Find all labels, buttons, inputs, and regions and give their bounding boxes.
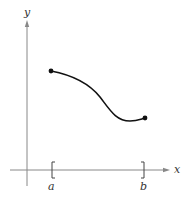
x-axis-arrow-icon — [163, 168, 170, 172]
function-curve — [51, 71, 145, 121]
y-axis-arrow-icon — [25, 20, 29, 27]
left-endpoint — [49, 69, 54, 74]
right-endpoint — [143, 116, 148, 121]
interval-right-label: b — [140, 180, 147, 193]
interval-left-label: a — [48, 180, 55, 193]
x-axis-label: x — [174, 163, 181, 176]
y-axis-label: y — [23, 6, 31, 19]
diagram-canvas: y x a b — [0, 0, 190, 202]
